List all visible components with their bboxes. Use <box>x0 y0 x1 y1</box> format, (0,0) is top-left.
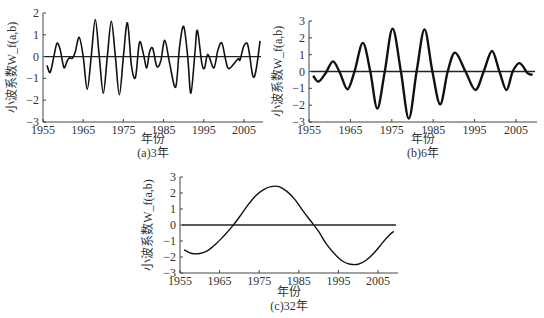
x-tick-label: 1955 <box>31 123 55 137</box>
x-tick-label: 2005 <box>232 123 256 137</box>
y-tick-label: −1 <box>163 234 176 248</box>
panel-caption: (b)6年 <box>407 146 439 160</box>
x-tick-label: 1955 <box>168 274 192 288</box>
x-tick-label: 1975 <box>111 123 135 137</box>
y-tick-label: −1 <box>292 81 305 95</box>
chart-panel-32yr: 3210−1−2−3195519651975198519952005年份(c)3… <box>140 170 398 313</box>
y-tick-label: −1 <box>26 71 39 85</box>
y-tick-label: −2 <box>292 98 305 112</box>
panel-caption: (c)32年 <box>270 299 307 313</box>
y-axis-label: 小波系数W_f(a,b) <box>4 22 19 114</box>
y-tick-label: 1 <box>33 28 39 42</box>
x-tick-label: 1995 <box>326 274 350 288</box>
y-tick-label: 3 <box>299 14 305 28</box>
y-tick-label: 2 <box>170 186 176 200</box>
x-tick-label: 1965 <box>338 123 362 137</box>
x-tick-label: 1995 <box>192 123 216 137</box>
y-tick-label: 2 <box>33 6 39 20</box>
y-tick-label: 3 <box>170 170 176 184</box>
y-tick-label: 0 <box>33 50 39 64</box>
y-tick-label: 0 <box>170 218 176 232</box>
x-tick-label: 1975 <box>380 123 404 137</box>
chart-panel-3yr: 210−1−2−3195519651975198519952005年份(a)3年… <box>4 6 263 160</box>
y-tick-label: 1 <box>170 202 176 216</box>
x-tick-label: 1965 <box>208 274 232 288</box>
x-tick-label: 1975 <box>247 274 271 288</box>
x-tick-label: 2005 <box>504 123 528 137</box>
x-tick-label: 2005 <box>366 274 390 288</box>
wavelet-coefficient-curve <box>313 29 532 119</box>
wavelet-figure: 210−1−2−3195519651975198519952005年份(a)3年… <box>0 0 544 318</box>
x-axis-label: 年份 <box>141 132 165 146</box>
panel-caption: (a)3年 <box>137 146 168 160</box>
y-axis-label: 小波系数W_f(a,b) <box>270 26 285 118</box>
x-tick-label: 1955 <box>297 123 321 137</box>
y-axis-label: 小波系数W_f(a,b) <box>140 179 155 271</box>
x-axis-label: 年份 <box>277 285 301 299</box>
chart-panel-6yr: 3210−1−2−3195519651975198519952005年份(b)6… <box>270 14 537 160</box>
y-tick-label: −2 <box>26 93 39 107</box>
x-tick-label: 1995 <box>463 123 487 137</box>
y-tick-label: 2 <box>299 31 305 45</box>
x-axis-label: 年份 <box>411 132 435 146</box>
y-tick-label: −2 <box>163 250 176 264</box>
x-tick-label: 1965 <box>71 123 95 137</box>
y-tick-label: 0 <box>299 65 305 79</box>
y-tick-label: 1 <box>299 48 305 62</box>
